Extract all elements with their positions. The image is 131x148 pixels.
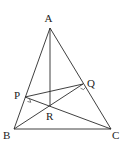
triangle-abc [14,28,111,129]
geometry-diagram: A B C P Q R [0,0,131,148]
label-p: P [14,89,20,101]
segment-ab [14,28,50,129]
segment-pq [25,84,83,97]
right-angle-mark-q [81,87,86,89]
label-q: Q [87,77,95,89]
label-c: C [112,129,119,141]
segment-ac [50,28,111,129]
segment-bq [14,84,83,129]
label-a: A [45,12,53,24]
label-r: R [46,110,54,122]
label-b: B [3,129,10,141]
